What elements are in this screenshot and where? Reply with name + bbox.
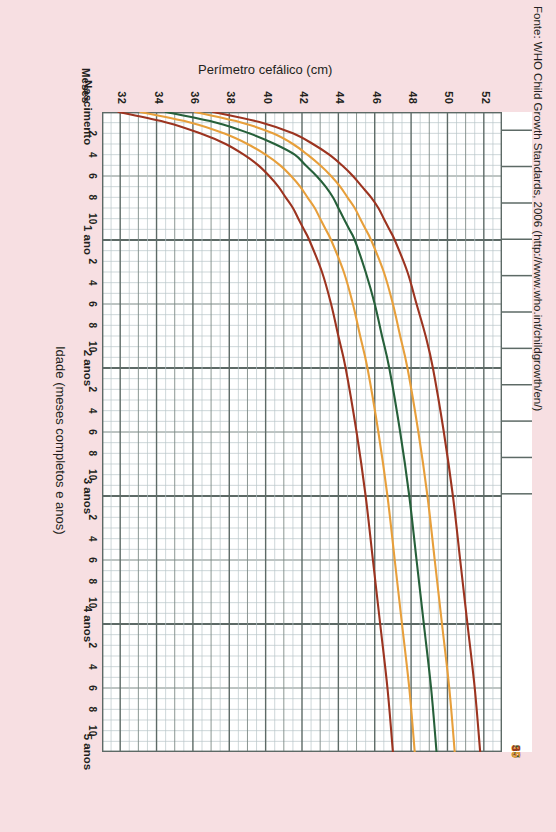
x-minor-tick-50: 2 (87, 634, 98, 656)
x-minor-tick-54: 6 (87, 677, 98, 699)
y-tick-48: 48 (407, 74, 419, 104)
months-axis-label: Meses (80, 68, 92, 103)
y-tick-32: 32 (116, 74, 128, 104)
x-minor-tick-10: 10 (87, 208, 98, 230)
x-minor-tick-56: 8 (87, 698, 98, 720)
x-minor-tick-44: 8 (87, 570, 98, 592)
source-credit: Fonte: WHO Child Growth Standards, 2006 … (532, 6, 544, 411)
header-tick-marks (501, 112, 532, 752)
y-tick-46: 46 (371, 74, 383, 104)
x-minor-tick-14: 2 (87, 250, 98, 272)
percentile-label-3: 3 (510, 745, 522, 751)
y-tick-38: 38 (225, 74, 237, 104)
x-minor-tick-4: 4 (87, 144, 98, 166)
x-minor-tick-42: 6 (87, 549, 98, 571)
x-minor-tick-2: 2 (87, 122, 98, 144)
x-minor-tick-58: 10 (87, 720, 98, 742)
x-minor-tick-18: 6 (87, 293, 98, 315)
x-minor-tick-28: 4 (87, 400, 98, 422)
y-tick-40: 40 (262, 74, 274, 104)
x-minor-tick-26: 2 (87, 378, 98, 400)
x-axis-title: Idade (meses completos e anos) (53, 346, 68, 535)
x-minor-tick-6: 6 (87, 165, 98, 187)
growth-chart-figure: 5250484644424038363432 Nascimento1 ano2 … (18, 16, 538, 816)
x-minor-tick-22: 10 (87, 336, 98, 358)
x-minor-tick-46: 10 (87, 592, 98, 614)
x-minor-tick-20: 8 (87, 314, 98, 336)
x-minor-tick-34: 10 (87, 464, 98, 486)
plot-area (102, 112, 502, 752)
chart-svg (102, 112, 502, 752)
y-tick-50: 50 (443, 74, 455, 104)
rotated-chart-container: 5250484644424038363432 Nascimento1 ano2 … (18, 16, 538, 816)
y-tick-44: 44 (334, 74, 346, 104)
x-minor-tick-16: 4 (87, 272, 98, 294)
x-minor-tick-8: 8 (87, 186, 98, 208)
x-minor-tick-38: 2 (87, 506, 98, 528)
y-tick-36: 36 (189, 74, 201, 104)
x-minor-tick-52: 4 (87, 656, 98, 678)
x-minor-tick-40: 4 (87, 528, 98, 550)
y-tick-34: 34 (153, 74, 165, 104)
y-axis-title: Perímetro cefálico (cm) (198, 62, 332, 77)
y-tick-52: 52 (480, 74, 492, 104)
y-tick-42: 42 (298, 74, 310, 104)
x-minor-tick-30: 6 (87, 421, 98, 443)
x-minor-tick-32: 8 (87, 442, 98, 464)
